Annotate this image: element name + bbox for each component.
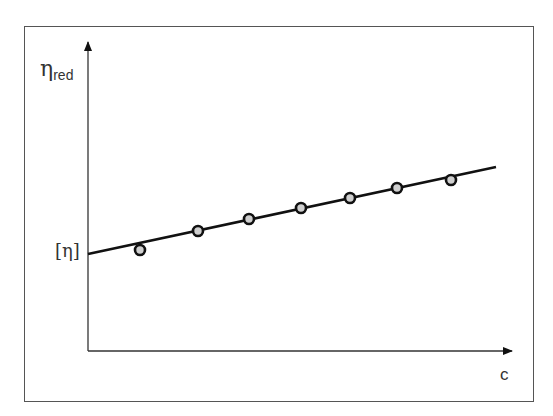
y-axis-label: ηred bbox=[40, 56, 73, 83]
data-point-marker bbox=[244, 214, 254, 224]
data-point-marker bbox=[193, 226, 203, 236]
axes bbox=[88, 42, 512, 351]
data-point-marker bbox=[345, 193, 355, 203]
x-axis-label: c bbox=[500, 365, 509, 385]
intercept-label: [η] bbox=[55, 240, 80, 261]
fit-line-path bbox=[88, 167, 496, 254]
data-point-marker bbox=[296, 203, 306, 213]
data-point-marker bbox=[446, 175, 456, 185]
fit-line bbox=[88, 167, 496, 254]
data-point-marker bbox=[135, 245, 145, 255]
data-point-marker bbox=[392, 183, 402, 193]
plot-area bbox=[0, 0, 553, 416]
